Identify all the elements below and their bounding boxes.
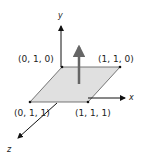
corner-label-111: (1, 1, 1): [75, 109, 111, 118]
corner-point: [29, 101, 32, 104]
x-axis-label: x: [129, 94, 134, 102]
z-axis-label: z: [7, 146, 11, 154]
plane: [30, 67, 120, 102]
corner-label-110: (1, 1, 0): [98, 55, 134, 64]
corner-point: [87, 101, 90, 104]
plane-normal-diagram: y x z (0, 1, 0) (1, 1, 0) (0, 1, 1) (1, …: [0, 0, 145, 163]
corner-label-011: (0, 1, 1): [14, 109, 50, 118]
corner-point: [119, 66, 122, 69]
corner-label-010: (0, 1, 0): [18, 55, 54, 64]
corner-point: [61, 66, 64, 69]
y-axis-label: y: [58, 12, 63, 20]
diagram-graphics: [0, 0, 145, 163]
